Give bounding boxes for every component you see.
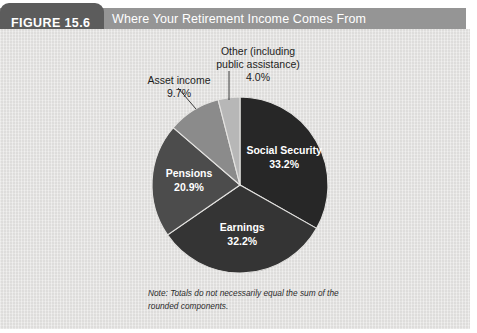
figure-body-panel: Social Security 33.2% Earnings 32.2% Pen…: [0, 29, 470, 329]
pie-label-social-security: Social Security: [246, 144, 321, 156]
pie-label-pensions: Pensions: [166, 167, 213, 179]
figure-note-line2: rounded components.: [148, 300, 438, 313]
pie-value-earnings: 32.2%: [227, 235, 257, 247]
pie-label-earnings: Earnings: [220, 221, 265, 233]
pie-chart: Social Security 33.2% Earnings 32.2% Pen…: [0, 29, 470, 329]
figure-root: FIGURE 15.6 Where Your Retirement Income…: [0, 0, 477, 333]
callout-other-line1: Other (including: [196, 45, 320, 58]
figure-note-line1: Note: Totals do not necessarily equal th…: [148, 287, 438, 300]
callout-asset-income: Asset income 9.7%: [136, 74, 222, 100]
callout-asset-income-line1: Asset income: [136, 74, 222, 87]
figure-number-label: FIGURE 15.6: [11, 16, 90, 30]
pie-value-pensions: 20.9%: [174, 181, 204, 193]
figure-title: Where Your Retirement Income Comes From: [112, 12, 366, 26]
figure-note: Note: Totals do not necessarily equal th…: [148, 287, 438, 312]
callout-other-line2: public assistance): [196, 58, 320, 71]
figure-header: FIGURE 15.6 Where Your Retirement Income…: [0, 8, 466, 29]
callout-asset-income-value: 9.7%: [136, 87, 222, 100]
pie-value-social-security: 33.2%: [269, 158, 299, 170]
